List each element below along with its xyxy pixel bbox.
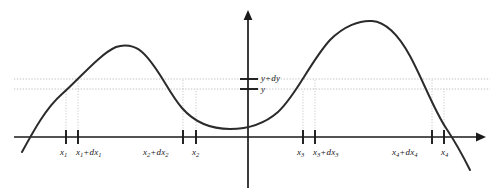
tick-label-x4-plus-dx4: x4+dx4 (392, 148, 418, 159)
tick-label-x3p-dsub: 3 (335, 151, 338, 158)
tick-label-x1p-dsym: dx (90, 147, 99, 157)
tick-label-x1-sub: 1 (64, 151, 67, 158)
tick-label-x1p-dsub: 1 (98, 151, 101, 158)
y-axis-arrow-icon (244, 10, 253, 20)
tick-label-x2-sub: 2 (196, 151, 199, 158)
tick-label-x2p-dsub: 2 (165, 151, 168, 158)
tick-label-x1-plus-dx1: x1+dx1 (76, 148, 102, 159)
label-y-plus-dy: y+dy (261, 74, 280, 83)
tick-label-x2-plus-dx2: x2+dx2 (143, 148, 169, 159)
tick-label-x3-plus-dx3: x3+dx3 (313, 148, 339, 159)
tick-label-x3p-dsym: dx (327, 147, 336, 157)
tick-label-x4-sub: 4 (445, 151, 448, 158)
tick-label-x3-sub: 3 (301, 151, 304, 158)
x-axis-arrow-icon (476, 133, 486, 142)
label-y-base: y (261, 84, 265, 94)
figure-canvas: y+dy y x1 x1+dx1 x2+dx2 x2 x3 x3+dx3 x4+… (0, 0, 492, 191)
y-axis-level-ticks (240, 79, 258, 89)
level-lines (14, 79, 490, 89)
tick-label-x1: x1 (60, 148, 67, 159)
tick-label-x4p-dsub: 4 (414, 151, 417, 158)
tick-label-x4: x4 (441, 148, 448, 159)
vertical-guide-lines (66, 79, 444, 137)
tick-label-x2p-dsym: dx (157, 147, 166, 157)
label-y: y (261, 85, 265, 94)
tick-label-x4p-dsym: dx (406, 147, 415, 157)
tick-label-x3: x3 (297, 148, 304, 159)
math-figure-svg (0, 0, 492, 191)
tick-label-x2: x2 (192, 148, 199, 159)
label-y-plus-dy-delta: dy (271, 73, 280, 83)
